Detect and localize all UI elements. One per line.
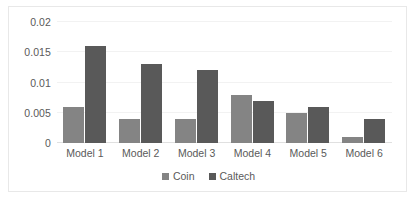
bar-group [336,22,392,143]
x-tick-label: Model 2 [113,147,169,159]
chart-legend: CoinCaltech [9,170,408,182]
legend-swatch-icon [162,173,169,180]
y-tick-label: 0.005 [24,107,51,119]
x-tick-label: Model 3 [169,147,225,159]
x-tick-label: Model 6 [336,147,392,159]
bar-coin-4[interactable] [231,95,252,143]
x-tick-label: Model 5 [280,147,336,159]
bar-coin-5[interactable] [286,113,307,143]
legend-label: Caltech [220,170,256,182]
y-axis: 00.0050.010.0150.02 [9,22,55,143]
y-tick-label: 0.015 [24,46,51,58]
legend-label: Coin [173,170,195,182]
chart-container: 00.0050.010.0150.02 Model 1Model 2Model … [8,6,407,192]
bar-group [169,22,225,143]
legend-item-coin[interactable]: Coin [162,170,195,182]
bar-coin-6[interactable] [342,137,363,143]
legend-swatch-icon [209,173,216,180]
bar-group [225,22,281,143]
x-tick-label: Model 1 [57,147,113,159]
x-axis: Model 1Model 2Model 3Model 4Model 5Model… [57,147,392,163]
bar-caltech-3[interactable] [197,70,218,143]
x-tick-label: Model 4 [225,147,281,159]
bar-caltech-1[interactable] [85,46,106,143]
bars-layer [57,22,392,143]
y-tick-label: 0.01 [30,77,51,89]
y-tick-label: 0 [45,137,51,149]
bar-coin-2[interactable] [119,119,140,143]
bar-group [113,22,169,143]
bar-coin-3[interactable] [175,119,196,143]
y-tick-label: 0.02 [30,16,51,28]
legend-item-caltech[interactable]: Caltech [209,170,256,182]
bar-group [280,22,336,143]
bar-coin-1[interactable] [63,107,84,143]
bar-caltech-2[interactable] [141,64,162,143]
bar-group [57,22,113,143]
plot-area [57,22,392,143]
bar-caltech-4[interactable] [253,101,274,143]
bar-caltech-6[interactable] [364,119,385,143]
bar-caltech-5[interactable] [308,107,329,143]
